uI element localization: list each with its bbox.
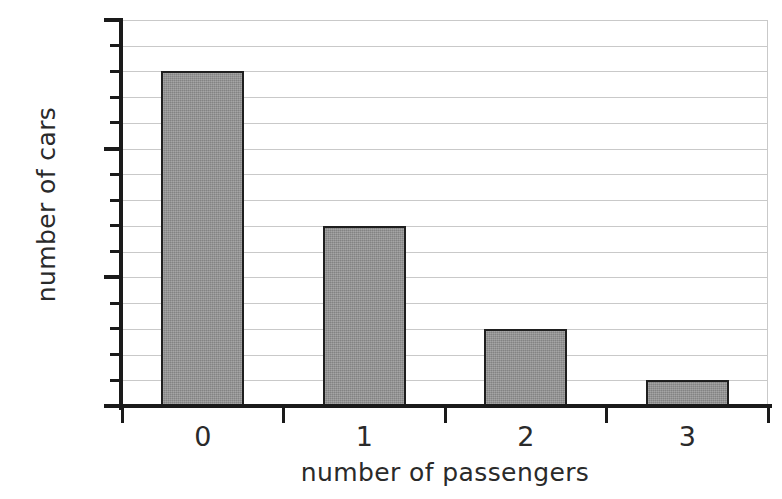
x-tick xyxy=(121,406,124,423)
y-axis-line xyxy=(119,18,123,410)
y-axis-title: number of cars xyxy=(32,55,61,355)
y-tick-minor xyxy=(110,70,122,73)
y-tick-minor xyxy=(110,199,122,202)
x-tick-label: 2 xyxy=(466,421,586,452)
x-tick xyxy=(605,406,608,423)
y-tick-minor xyxy=(110,379,122,382)
y-tick-minor xyxy=(110,250,122,253)
y-tick-minor xyxy=(110,96,122,99)
y-tick-minor xyxy=(110,173,122,176)
bar-chart: number of cars number of passengers 0102… xyxy=(0,0,782,499)
gridline xyxy=(122,46,768,47)
x-axis-title: number of passengers xyxy=(122,458,768,487)
bar xyxy=(646,380,729,406)
y-tick-minor xyxy=(110,327,122,330)
x-tick-label: 3 xyxy=(627,421,747,452)
x-tick xyxy=(282,406,285,423)
y-tick-major xyxy=(104,404,122,408)
x-tick xyxy=(444,406,447,423)
y-tick-minor xyxy=(110,302,122,305)
y-tick-minor xyxy=(110,44,122,47)
x-tick-label: 1 xyxy=(304,421,424,452)
plot-area xyxy=(122,20,768,406)
y-tick-minor xyxy=(110,353,122,356)
gridline xyxy=(122,20,768,21)
y-tick-major xyxy=(104,147,122,151)
y-tick-minor xyxy=(110,121,122,124)
y-tick-major xyxy=(104,18,122,22)
x-tick-label: 0 xyxy=(143,421,263,452)
y-tick-major xyxy=(104,275,122,279)
bar xyxy=(484,329,567,406)
x-tick xyxy=(767,406,770,423)
y-tick-minor xyxy=(110,224,122,227)
bar xyxy=(161,71,244,406)
plot-right-border xyxy=(767,20,768,406)
bar xyxy=(323,226,406,406)
